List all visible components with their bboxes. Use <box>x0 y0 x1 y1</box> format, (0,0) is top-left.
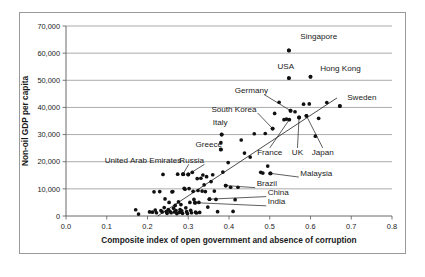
data-point <box>134 208 138 212</box>
annotation-label-india: India <box>268 197 286 206</box>
annotation-label-south-korea: South Korea <box>211 105 256 114</box>
data-point <box>209 180 213 184</box>
data-point <box>205 175 209 179</box>
annotation-leader-line <box>188 164 204 174</box>
annotated-data-point <box>287 48 291 52</box>
y-tick-label: 70,000 <box>37 22 60 31</box>
data-point <box>187 187 191 191</box>
data-point <box>200 189 204 193</box>
x-tick-label: 0.0 <box>61 222 71 231</box>
data-point <box>158 190 162 194</box>
annotation-label-china: China <box>268 188 290 197</box>
data-point <box>211 173 215 177</box>
data-point <box>204 190 208 194</box>
annotation-label-germany: Germany <box>235 86 269 95</box>
data-point <box>221 170 225 174</box>
annotation-leader-line <box>258 113 273 129</box>
data-point <box>233 198 237 202</box>
x-tick-label: 0.5 <box>265 222 275 231</box>
data-point <box>231 210 235 214</box>
data-point <box>155 211 159 215</box>
data-point <box>202 183 206 187</box>
annotation-leader-line <box>270 120 290 148</box>
annotated-data-point <box>186 173 190 177</box>
x-tick-label: 0.8 <box>387 222 397 231</box>
data-point <box>325 101 329 105</box>
data-point <box>243 151 247 155</box>
data-point <box>173 204 177 208</box>
annotated-data-point <box>309 75 313 79</box>
data-point <box>160 210 164 214</box>
data-point <box>183 187 187 191</box>
data-point <box>236 185 240 189</box>
data-point <box>302 102 306 106</box>
annotated-data-point <box>220 133 224 137</box>
data-point <box>167 201 171 205</box>
data-point <box>188 201 192 205</box>
data-point <box>216 210 220 214</box>
annotation-label-brazil: Brazil <box>257 179 277 188</box>
scatter-plot: 010,00020,00030,00040,00050,00060,00070,… <box>0 0 425 277</box>
data-point <box>226 161 230 165</box>
data-point <box>163 197 167 201</box>
x-tick-label: 0.6 <box>305 222 315 231</box>
data-point <box>192 198 196 202</box>
annotation-label-italy: Italy <box>213 118 229 127</box>
annotated-data-point <box>207 197 211 201</box>
data-point <box>263 132 267 136</box>
x-tick-label: 0.3 <box>183 222 193 231</box>
data-point <box>181 211 185 215</box>
data-point <box>162 206 166 210</box>
y-tick-label: 30,000 <box>37 130 60 139</box>
y-tick-label: 60,000 <box>37 49 60 58</box>
annotation-leader-line <box>306 116 322 148</box>
data-point <box>317 116 321 120</box>
data-point <box>252 132 256 136</box>
y-tick-label: 20,000 <box>37 157 60 166</box>
y-tick-label: 0 <box>56 212 60 221</box>
y-tick-label: 40,000 <box>37 103 60 112</box>
y-tick-label: 50,000 <box>37 76 60 85</box>
data-point <box>198 211 202 215</box>
data-point <box>179 203 183 207</box>
data-point <box>195 211 199 215</box>
x-axis-title: Composite index of open government and a… <box>101 235 356 245</box>
data-point <box>239 138 243 142</box>
chart-figure: 010,00020,00030,00040,00050,00060,00070,… <box>0 0 425 277</box>
data-point <box>201 173 205 177</box>
annotation-leader-line <box>271 173 299 177</box>
annotated-data-point <box>287 76 291 80</box>
annotation-label-sweden: Sweden <box>347 93 376 102</box>
data-point <box>191 189 195 193</box>
annotation-label-singapore: Singapore <box>300 32 337 41</box>
annotation-label-malaysia: Malaysia <box>300 169 332 178</box>
x-tick-label: 0.7 <box>346 222 356 231</box>
data-point <box>190 211 194 215</box>
annotation-leader-line <box>195 203 266 206</box>
data-point <box>176 172 180 176</box>
data-point <box>261 171 265 175</box>
annotated-data-point <box>287 118 291 122</box>
annotated-data-point <box>181 172 185 176</box>
data-point <box>195 177 199 181</box>
annotated-data-point <box>269 171 273 175</box>
annotation-label-russia: Russia <box>179 156 204 165</box>
annotated-data-point <box>224 184 228 188</box>
annotation-label-united-arab-emirates: United Arab Emirates <box>105 156 181 165</box>
annotated-data-point <box>289 109 293 113</box>
data-point <box>307 102 311 106</box>
data-point <box>273 112 277 116</box>
data-point <box>152 190 156 194</box>
annotation-label-france: France <box>257 148 283 157</box>
data-point <box>197 201 201 205</box>
y-axis-title: Non-oil GDP per capita <box>20 76 30 167</box>
x-tick-label: 0.1 <box>102 222 112 231</box>
data-point <box>199 176 203 180</box>
data-point <box>196 189 200 193</box>
data-point <box>161 173 165 177</box>
annotated-data-point <box>338 104 342 108</box>
data-point <box>266 164 270 168</box>
data-point <box>171 190 175 194</box>
data-point <box>293 110 297 114</box>
annotation-leader-line <box>209 197 266 200</box>
